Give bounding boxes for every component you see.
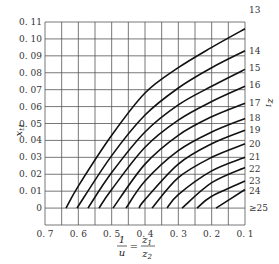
x-tick-label: 0. 1 <box>236 229 253 239</box>
z1-label: 19 <box>249 125 261 135</box>
y-tick-label: 0. 11 <box>19 17 42 27</box>
curve-z1-22 <box>182 168 245 209</box>
y-tick-label: 0. 10 <box>19 34 42 44</box>
z1-label: 17 <box>249 98 261 108</box>
z1-label: ≥25 <box>249 203 268 213</box>
y-tick-label: 0. 03 <box>19 152 42 162</box>
z1-label: 20 <box>249 139 261 149</box>
y-axis-ticks: 00. 010. 020. 030. 040. 050. 060. 070. 0… <box>19 17 42 213</box>
x-tick-label: 0. 7 <box>36 229 53 239</box>
y-tick-label: 0. 07 <box>19 85 42 95</box>
y-tick-label: 0. 08 <box>19 68 42 78</box>
z1-label: 21 <box>249 152 260 162</box>
z1-label: 15 <box>249 63 261 73</box>
y-tick-label: 0 <box>36 203 42 213</box>
y-tick-label: 0. 01 <box>19 186 42 196</box>
z1-label: 18 <box>249 113 261 123</box>
curve-z1-14 <box>77 51 245 208</box>
z1-label: 14 <box>249 46 261 56</box>
z1-label: 16 <box>249 80 261 90</box>
svg-text:z1: z1 <box>264 97 277 108</box>
z1-label: 24 <box>249 186 261 196</box>
right-edge-labels: 131415161718192021222324≥25 <box>249 5 268 213</box>
right-axis-title: z1 <box>264 97 277 108</box>
x-tick-label: 0. 2 <box>203 229 220 239</box>
z1-label: 23 <box>249 176 261 186</box>
z1-label: 13 <box>249 5 261 15</box>
y-tick-label: 0. 06 <box>19 102 42 112</box>
x-tick-label: 0. 3 <box>170 229 187 239</box>
svg-text:z2: z2 <box>141 248 152 261</box>
z1-label: 22 <box>249 164 260 174</box>
chart: 00. 010. 020. 030. 040. 050. 060. 070. 0… <box>0 0 279 264</box>
svg-text:=: = <box>130 241 138 252</box>
y-tick-label: 0. 09 <box>19 51 42 61</box>
svg-text:1: 1 <box>119 234 125 245</box>
x-tick-label: 0. 6 <box>70 229 87 239</box>
y-tick-label: 0. 02 <box>19 169 42 179</box>
svg-text:u: u <box>119 247 125 258</box>
